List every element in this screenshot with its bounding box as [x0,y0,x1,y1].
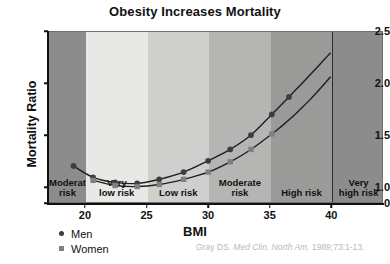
series-men [71,53,331,187]
legend-entry-men: Men [56,226,109,241]
data-point-women [205,169,210,174]
y-tick-mark [44,187,48,189]
series-women [90,77,330,189]
legend-entry-women: Women [56,241,109,256]
citation-journal: Med Clin. North Am. [233,242,309,252]
x-tick-mark [84,204,86,208]
plot-area: Moderate riskVery low riskLow riskModera… [48,31,383,203]
curve-line [93,77,331,187]
data-point-men [205,158,211,164]
x-tick-mark [331,204,333,208]
chart-legend: MenWomen [56,226,109,256]
citation-reference: 1989;73:1-13. [312,242,364,252]
obesity-mortality-chart: Obesity Increases Mortality Moderate ris… [0,0,390,264]
y-tick-label: 0 [346,197,390,209]
citation-author: Gray DS. [196,242,231,252]
y-tick-label: 2.0 [346,77,390,89]
x-tick-label: 20 [79,209,91,221]
chart-title: Obesity Increases Mortality [0,4,390,19]
x-axis-line [47,203,384,205]
square-marker-icon [56,246,67,251]
x-tick-mark [146,204,148,208]
marker-glyph [59,246,64,251]
data-point-women [181,177,186,182]
mortality-curves [49,32,382,202]
y-tick-mark [44,82,48,84]
x-tick-mark [207,204,209,208]
data-point-women [269,131,274,136]
data-point-women [90,178,95,183]
y-axis-title: Mortality Ratio [25,44,39,204]
marker-glyph [59,231,64,236]
data-point-men [181,169,187,175]
data-point-men [156,176,162,182]
y-tick-label: 1.0 [346,181,390,193]
data-point-women [157,182,162,187]
curve-line [73,53,330,184]
x-tick-mark [269,204,271,208]
circle-marker-icon [56,231,67,236]
y-tick-label: 1.5 [346,129,390,141]
data-point-women [112,183,117,188]
data-point-men [269,112,275,118]
x-tick-label: 35 [264,209,276,221]
y-axis-line [47,31,49,204]
data-point-men [71,163,77,169]
data-point-women [248,147,253,152]
y-tick-mark [44,30,48,32]
y-tick-mark [44,202,48,204]
x-tick-label: 30 [202,209,214,221]
data-point-men [227,147,233,153]
legend-label: Men [71,228,92,240]
data-point-women [228,159,233,164]
citation: Gray DS. Med Clin. North Am. 1989;73:1-1… [196,242,364,252]
y-tick-mark [44,134,48,136]
x-tick-label: 40 [325,209,337,221]
data-point-men [248,132,254,138]
data-point-women [134,184,139,189]
data-point-men [286,94,292,100]
legend-label: Women [71,243,109,255]
x-tick-label: 25 [140,209,152,221]
y-tick-label: 2.5 [346,25,390,37]
